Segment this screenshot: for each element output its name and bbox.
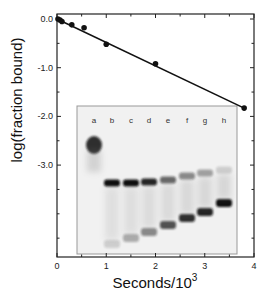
free-band-lane-f (179, 214, 195, 222)
lane-label-e: e (166, 116, 171, 125)
data-point (103, 42, 109, 48)
x-tick-label: 2 (153, 261, 158, 271)
data-point (153, 61, 159, 67)
smear-lane-a (87, 150, 101, 172)
smear-lane-c (124, 187, 138, 234)
gel-inset: abcdefgh (77, 106, 237, 254)
free-band-lane-e (160, 221, 176, 229)
free-band-lane-d (141, 228, 157, 236)
bound-band-lane-f (179, 173, 195, 180)
free-band-lane-g (197, 208, 213, 216)
smear-lane-e (161, 184, 175, 221)
data-point (81, 25, 87, 31)
x-tick-label: 4 (251, 261, 256, 271)
y-tick-label: -3.0 (37, 160, 53, 170)
bound-band-lane-d (141, 179, 157, 186)
bound-band-lane-e (160, 177, 176, 184)
x-tick-label: 3 (202, 261, 207, 271)
smear-lane-d (142, 186, 156, 228)
smear-lane-b (105, 187, 119, 240)
lane-label-d: d (147, 116, 151, 125)
lane-label-b: b (110, 116, 115, 125)
bound-band-lane-h (216, 167, 232, 174)
data-series (55, 16, 247, 111)
data-point (59, 19, 65, 25)
y-tick-label: -2.0 (37, 111, 53, 121)
lane-label-h: h (222, 116, 226, 125)
free-band-lane-c (123, 234, 139, 242)
y-tick-label: -1.0 (37, 63, 53, 73)
smear-lane-f (180, 180, 194, 214)
free-band-lane-b (104, 240, 120, 248)
fit-line (57, 19, 244, 108)
lane-label-c: c (129, 116, 133, 125)
bound-band-lane-b (104, 180, 120, 187)
chart: abcdefgh 012340.0-1.0-2.0-3.0 Seconds/10… (0, 0, 269, 298)
smear-lane-h (217, 174, 231, 199)
y-axis-title: log(fraction bound) (8, 37, 25, 162)
lane-label-g: g (203, 116, 207, 125)
bound-band-lane-g (197, 170, 213, 177)
y-tick-label: 0.0 (40, 14, 53, 24)
x-tick-label: 1 (104, 261, 109, 271)
bound-band-lane-c (123, 180, 139, 187)
data-point (69, 22, 75, 28)
smear-lane-g (198, 177, 212, 208)
x-axis-title: Seconds/103 (113, 272, 198, 291)
x-tick-label: 0 (54, 261, 59, 271)
lane-label-a: a (92, 116, 97, 125)
free-band-lane-h (216, 199, 232, 207)
data-point (241, 105, 247, 111)
